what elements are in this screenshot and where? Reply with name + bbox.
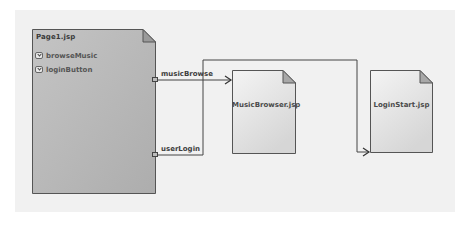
page-title: MusicBrowser.jsp — [232, 101, 296, 109]
link-label-music-browse: musicBrowse — [161, 70, 213, 78]
trigger-login-button[interactable]: loginButton — [35, 65, 92, 74]
page-document-icon — [370, 70, 433, 153]
page-document-icon — [232, 70, 296, 154]
page-title: LoginStart.jsp — [370, 101, 433, 109]
page-node-music-browser[interactable]: MusicBrowser.jsp — [232, 70, 296, 154]
event-trigger-icon — [35, 66, 43, 73]
event-trigger-icon — [35, 52, 43, 59]
trigger-label: loginButton — [46, 66, 92, 74]
page-title: Page1.jsp — [36, 33, 75, 41]
port-music-browse[interactable] — [152, 77, 158, 82]
trigger-label: browseMusic — [46, 52, 97, 60]
page-node-page1[interactable]: Page1.jsp browseMusic loginButton — [32, 29, 156, 194]
link-label-user-login: userLogin — [161, 145, 200, 153]
page-node-login-start[interactable]: LoginStart.jsp — [370, 70, 433, 153]
trigger-browse-music[interactable]: browseMusic — [35, 51, 97, 60]
port-user-login[interactable] — [152, 152, 158, 157]
